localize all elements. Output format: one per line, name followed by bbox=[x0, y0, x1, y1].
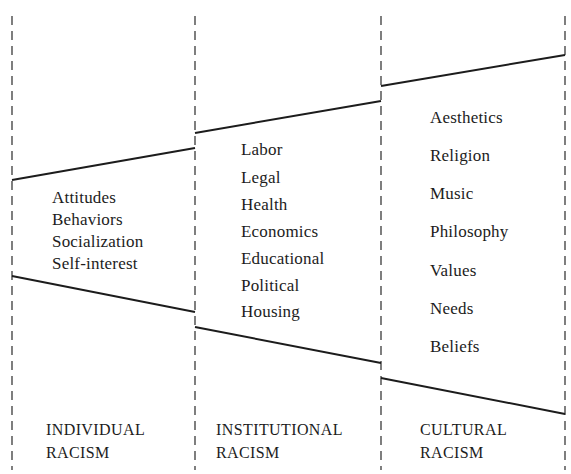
institutional-item: Economics bbox=[241, 222, 318, 242]
individual-item: Self-interest bbox=[52, 254, 138, 274]
institutional-item: Educational bbox=[241, 249, 324, 269]
cultural-title-line2: RACISM bbox=[420, 441, 484, 464]
institutional-item: Legal bbox=[241, 168, 281, 188]
cultural-item: Religion bbox=[430, 146, 490, 166]
cultural-item: Music bbox=[430, 184, 474, 204]
cultural-item: Aesthetics bbox=[430, 108, 503, 128]
cultural-item: Needs bbox=[430, 299, 473, 319]
institutional-item: Housing bbox=[241, 302, 300, 322]
individual-item: Behaviors bbox=[52, 210, 123, 230]
cultural-item: Philosophy bbox=[430, 222, 509, 242]
individual-title-line2: RACISM bbox=[46, 441, 110, 464]
cultural-top-edge bbox=[381, 55, 565, 86]
individual-top-edge bbox=[12, 148, 195, 180]
institutional-title-line1: INSTITUTIONAL bbox=[216, 418, 343, 441]
cultural-item: Beliefs bbox=[430, 337, 480, 357]
individual-item: Attitudes bbox=[52, 188, 116, 208]
individual-item: Socialization bbox=[52, 232, 143, 252]
institutional-item: Political bbox=[241, 276, 299, 296]
cultural-item: Values bbox=[430, 261, 477, 281]
individual-title-line1: INDIVIDUAL bbox=[46, 418, 145, 441]
institutional-top-edge bbox=[195, 101, 381, 133]
institutional-item: Labor bbox=[241, 140, 283, 160]
institutional-bottom-edge bbox=[195, 327, 381, 363]
cultural-bottom-edge bbox=[381, 378, 565, 414]
individual-bottom-edge bbox=[12, 276, 195, 312]
institutional-title-line2: RACISM bbox=[216, 441, 280, 464]
institutional-item: Health bbox=[241, 195, 288, 215]
cultural-title-line1: CULTURAL bbox=[420, 418, 507, 441]
